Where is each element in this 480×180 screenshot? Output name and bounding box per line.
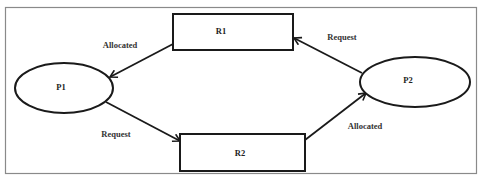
resource-allocation-diagram: R1 R2 P1 P2 Allocated Request Request Al… [0,0,480,180]
edge-label-r2-to-p2: Allocated [348,121,383,131]
resource-r1-box [173,14,293,50]
process-p2: P2 [360,57,470,107]
resource-r2-label: R2 [235,148,245,158]
edge-label-r1-to-p1: Allocated [103,40,138,50]
process-p2-ellipse [360,57,470,107]
edge-label-p2-to-r1: Request [327,32,356,42]
process-p2-label: P2 [403,75,412,85]
resource-r2: R2 [180,134,305,171]
process-p1: P1 [15,63,113,113]
edge-label-p1-to-r2: Request [101,129,130,139]
process-p1-label: P1 [56,82,65,92]
resource-r1-label: R1 [216,26,226,36]
resource-r1: R1 [173,14,293,50]
